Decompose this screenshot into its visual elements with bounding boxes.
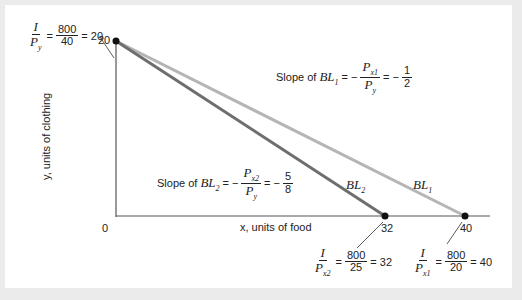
y-intercept-point: [113, 38, 120, 45]
x-tick-32: 32: [381, 222, 393, 234]
leader-line-x32: [357, 222, 383, 248]
y-intercept-annotation: IPy = 80040 = 20: [28, 20, 103, 52]
x-tick-40: 40: [460, 222, 472, 234]
slope-bl1-annotation: Slope of BL1 = − Px1Py = − 12: [276, 60, 412, 95]
x-intercept-bl1-annotation: IPx1 = 80020 = 40: [413, 246, 492, 278]
x-axis-label: x, units of food: [240, 221, 312, 233]
x-intercept-bl2-annotation: IPx2 = 80025 = 32: [313, 246, 392, 278]
bl1-label: BL1: [413, 177, 432, 195]
origin-label: 0: [102, 222, 108, 234]
bl2-label: BL2: [346, 177, 365, 195]
x-intercept-bl2-point: [382, 213, 389, 220]
x-intercept-bl1-point: [462, 213, 469, 220]
slope-bl2-annotation: Slope of BL2 = − Px2Py = − 58: [157, 166, 293, 201]
y-tick-20: 20: [98, 34, 110, 46]
y-axis-label: y, units of clothing: [40, 93, 52, 180]
